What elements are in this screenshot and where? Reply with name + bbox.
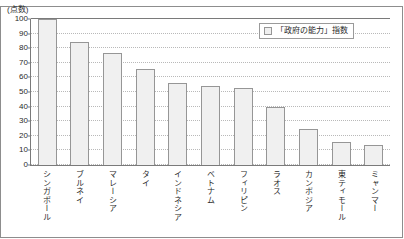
y-tick-label: 0 bbox=[24, 161, 28, 169]
y-tick-label: 50 bbox=[19, 88, 28, 96]
bar[interactable] bbox=[70, 42, 89, 165]
bar-slot bbox=[325, 19, 358, 165]
x-axis-label: ブルネイ bbox=[75, 170, 84, 236]
bar[interactable] bbox=[103, 53, 122, 165]
y-tick-label: 60 bbox=[19, 73, 28, 81]
y-tick-label: 100 bbox=[15, 15, 28, 23]
bar-slot bbox=[162, 19, 195, 165]
x-label-slot: ミャンマー bbox=[357, 170, 390, 236]
x-label-slot: タイ bbox=[128, 170, 161, 236]
x-axis-label: マレーシア bbox=[107, 170, 116, 236]
y-tick-label: 20 bbox=[19, 132, 28, 140]
x-label-slot: インドネシア bbox=[161, 170, 194, 236]
legend-label: 「政府の能力」指数 bbox=[276, 26, 348, 35]
bar-slot bbox=[292, 19, 325, 165]
x-axis-label: ミャンマー bbox=[369, 170, 378, 236]
y-tick-label: 10 bbox=[19, 146, 28, 154]
legend-square-icon bbox=[264, 27, 272, 35]
bar[interactable] bbox=[299, 129, 318, 166]
x-axis-label: タイ bbox=[140, 170, 149, 236]
x-label-slot: ベトナム bbox=[194, 170, 227, 236]
x-axis-category-labels: シンガポールブルネイマレーシアタイインドネシアベトナムフィリピンラオスカンボジア… bbox=[30, 170, 390, 236]
bar-series bbox=[31, 19, 390, 165]
y-tick-label: 40 bbox=[19, 103, 28, 111]
x-label-slot: ブルネイ bbox=[63, 170, 96, 236]
x-axis-label: ベトナム bbox=[206, 170, 215, 236]
bar[interactable] bbox=[38, 19, 57, 165]
chart-legend: 「政府の能力」指数 bbox=[259, 23, 354, 39]
x-label-slot: フィリピン bbox=[226, 170, 259, 236]
x-label-slot: 東ティモール bbox=[325, 170, 358, 236]
bar-slot bbox=[357, 19, 390, 165]
bar[interactable] bbox=[266, 107, 285, 165]
x-label-slot: シンガポール bbox=[30, 170, 63, 236]
bar-slot bbox=[96, 19, 129, 165]
x-label-slot: ラオス bbox=[259, 170, 292, 236]
plot-area: 0102030405060708090100 bbox=[30, 19, 390, 166]
bar[interactable] bbox=[234, 88, 253, 165]
y-axis-unit-label: (点数) bbox=[7, 5, 28, 14]
x-label-slot: カンボジア bbox=[292, 170, 325, 236]
x-axis-label: ラオス bbox=[271, 170, 280, 236]
bar-slot bbox=[227, 19, 260, 165]
x-axis-label: カンボジア bbox=[304, 170, 313, 236]
x-axis-label: フィリピン bbox=[238, 170, 247, 236]
x-label-slot: マレーシア bbox=[95, 170, 128, 236]
bar[interactable] bbox=[168, 83, 187, 165]
bar[interactable] bbox=[201, 86, 220, 165]
bar[interactable] bbox=[364, 145, 383, 165]
bar-slot bbox=[194, 19, 227, 165]
bar[interactable] bbox=[136, 69, 155, 165]
bar-slot bbox=[129, 19, 162, 165]
y-tick-label: 80 bbox=[19, 44, 28, 52]
bar-slot bbox=[259, 19, 292, 165]
bar-slot bbox=[64, 19, 97, 165]
chart-figure: (点数) 0102030405060708090100 シンガポールブルネイマレ… bbox=[0, 0, 404, 239]
x-axis-label: インドネシア bbox=[173, 170, 182, 236]
bar-slot bbox=[31, 19, 64, 165]
x-axis-label: 東ティモール bbox=[336, 170, 345, 236]
y-tick-label: 70 bbox=[19, 59, 28, 67]
y-tick-label: 90 bbox=[19, 30, 28, 38]
x-axis-label: シンガポール bbox=[42, 170, 51, 236]
bar[interactable] bbox=[332, 142, 351, 165]
y-tick-label: 30 bbox=[19, 117, 28, 125]
